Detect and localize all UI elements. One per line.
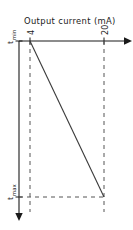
y-tick-label-top-group: t min	[6, 30, 17, 44]
y-axis-arrow-icon	[15, 213, 22, 221]
x-tick-label-left: 4	[27, 30, 36, 35]
y-tick-label-bottom-group: t max	[6, 183, 17, 200]
x-tick-label-right: 20	[101, 24, 110, 35]
y-tick-label-bottom-base: t	[6, 197, 15, 200]
y-tick-label-bottom-subscript: max	[11, 183, 17, 196]
data-line-series-1	[30, 41, 104, 197]
figure-container: Output current (mA) 4 20 t min t max	[0, 0, 133, 230]
chart-svg: Output current (mA) 4 20 t min t max	[0, 0, 133, 230]
x-axis-arrow-icon	[124, 37, 132, 44]
y-tick-label-top-subscript: min	[11, 30, 17, 40]
y-tick-label-top-base: t	[6, 41, 15, 44]
